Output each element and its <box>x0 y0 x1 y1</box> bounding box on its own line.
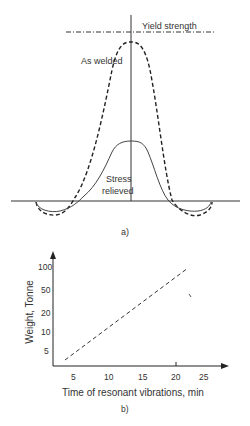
y-axis-arrow-icon <box>50 251 56 259</box>
x-tick-20: 20 <box>171 372 181 382</box>
x-tick-25: 25 <box>199 372 209 382</box>
stray-mark <box>189 294 191 297</box>
x-axis-label: Time of resonant vibrations, min <box>62 387 204 398</box>
y-tick-100: 100 <box>38 262 52 272</box>
figure-a-residual-stress: Yield strength As welded Stress relieved… <box>11 15 240 237</box>
y-tick-10: 10 <box>41 327 51 337</box>
y-tick-50: 50 <box>41 285 51 295</box>
y-tick-5: 5 <box>44 346 49 356</box>
as-welded-label: As welded <box>81 56 123 66</box>
yield-strength-label: Yield strength <box>142 21 197 31</box>
weight-trend-line <box>65 268 188 360</box>
x-tick-15: 15 <box>138 372 148 382</box>
x-tick-5: 5 <box>71 372 76 382</box>
diagram-canvas: Yield strength As welded Stress relieved… <box>0 0 250 426</box>
figure-a-caption: a) <box>121 227 129 237</box>
figure-b-weight-vs-time: 100 50 20 10 5 5 10 15 20 25 Weight, Ton… <box>24 251 229 414</box>
figure-b-caption: b) <box>121 404 129 414</box>
y-tick-20: 20 <box>41 308 51 318</box>
x-axis-arrow-icon <box>221 363 229 369</box>
stress-relieved-label-2: relieved <box>102 186 134 196</box>
y-axis-label: Weight, Tonne <box>24 280 35 344</box>
x-tick-10: 10 <box>104 372 114 382</box>
stress-relieved-label-1: Stress <box>106 174 132 184</box>
